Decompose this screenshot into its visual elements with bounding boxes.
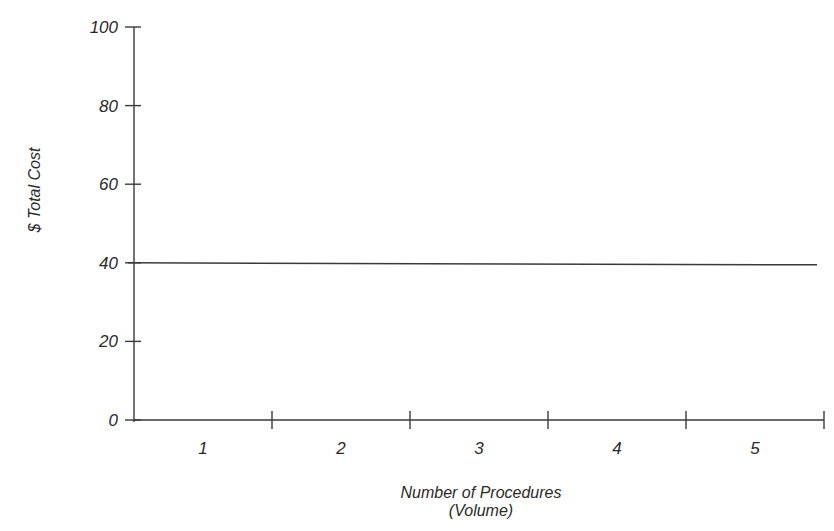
y-tick-label: 60 <box>99 175 118 194</box>
x-axis: 12345 <box>134 411 824 458</box>
total-cost-line <box>128 263 817 265</box>
y-tick-label: 100 <box>90 18 119 37</box>
x-tick-label: 5 <box>750 439 760 458</box>
y-tick-label: 80 <box>99 97 118 116</box>
y-axis-title: $ Total Cost <box>26 147 43 233</box>
x-tick-label: 4 <box>612 439 621 458</box>
y-tick-label: 0 <box>109 411 119 430</box>
y-tick-label: 40 <box>99 254 118 273</box>
x-axis-subtitle: (Volume) <box>449 502 513 519</box>
data-series <box>128 263 817 265</box>
x-tick-label: 1 <box>198 439 207 458</box>
x-tick-label: 3 <box>474 439 484 458</box>
y-tick-label: 20 <box>98 332 118 351</box>
x-tick-label: 2 <box>335 439 346 458</box>
y-axis: 020406080100 <box>90 18 141 430</box>
fixed-cost-chart: 020406080100 12345 $ Total Cost Number o… <box>0 0 834 531</box>
x-axis-title: Number of Procedures <box>401 484 562 501</box>
